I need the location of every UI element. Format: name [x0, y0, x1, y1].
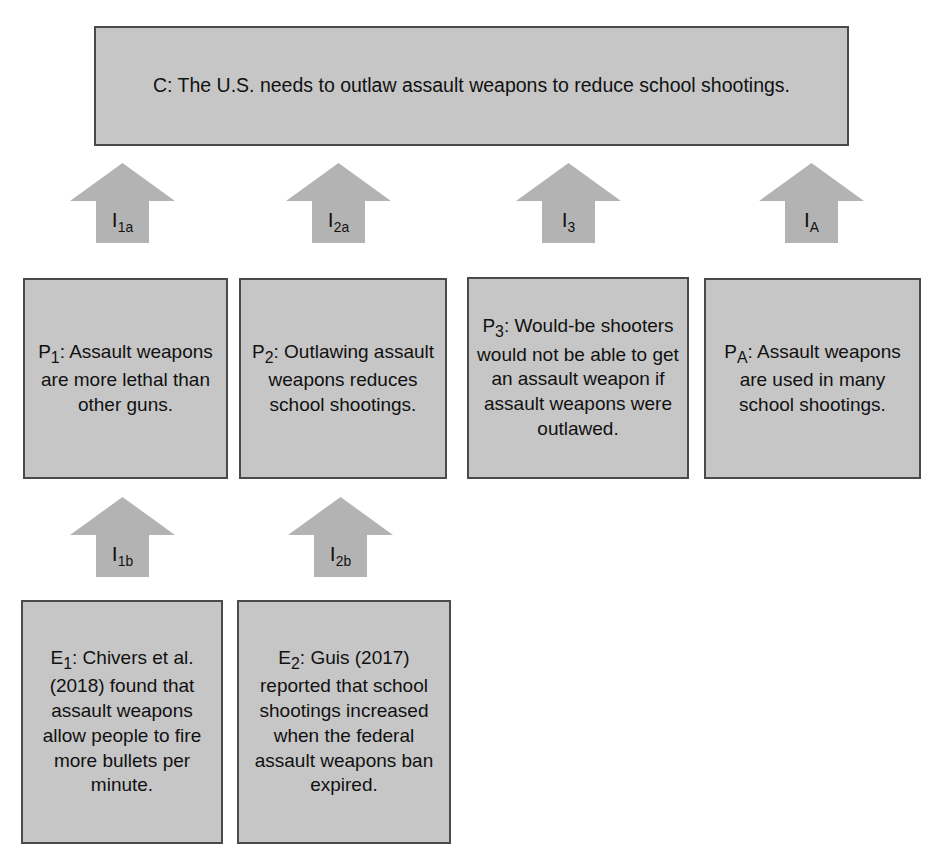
inference-arrow-i1a: I1a: [69, 162, 176, 244]
up-arrow-icon: [515, 162, 622, 244]
premise-text-p3: P3: Would-be shooters would not be able …: [475, 314, 681, 441]
argument-diagram: C: The U.S. needs to outlaw assault weap…: [0, 0, 945, 865]
evidence-box-e2: E2: Guis (2017) reported that school sho…: [237, 600, 451, 844]
inference-arrow-i2a: I2a: [285, 162, 392, 244]
up-arrow-icon: [287, 496, 394, 578]
up-arrow-icon: [758, 162, 865, 244]
premise-text-p2: P2: Outlawing assault weapons reduces sc…: [247, 340, 439, 418]
premise-text-p1: P1: Assault weapons are more lethal than…: [31, 340, 220, 418]
inference-arrow-ia: IA: [758, 162, 865, 244]
up-arrow-icon: [285, 162, 392, 244]
inference-arrow-i2b: I2b: [287, 496, 394, 578]
premise-box-p3: P3: Would-be shooters would not be able …: [467, 277, 689, 479]
inference-arrow-i1b: I1b: [69, 496, 176, 578]
premise-text-pa: PA: Assault weapons are used in many sch…: [712, 340, 913, 418]
premise-box-p1: P1: Assault weapons are more lethal than…: [23, 278, 228, 479]
premise-box-p2: P2: Outlawing assault weapons reduces sc…: [239, 278, 447, 479]
evidence-box-e1: E1: Chivers et al. (2018) found that ass…: [21, 600, 223, 844]
conclusion-box-c: C: The U.S. needs to outlaw assault weap…: [94, 26, 849, 146]
evidence-text-e2: E2: Guis (2017) reported that school sho…: [245, 646, 443, 798]
up-arrow-icon: [69, 496, 176, 578]
up-arrow-icon: [69, 162, 176, 244]
premise-box-pa: PA: Assault weapons are used in many sch…: [704, 278, 921, 479]
evidence-text-e1: E1: Chivers et al. (2018) found that ass…: [29, 646, 215, 798]
conclusion-text: C: The U.S. needs to outlaw assault weap…: [102, 73, 841, 98]
inference-arrow-i3: I3: [515, 162, 622, 244]
